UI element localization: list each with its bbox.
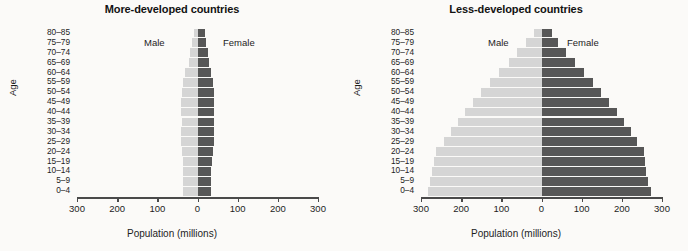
x-axis-tick-label: 200: [109, 203, 125, 214]
pyramid-row: [77, 77, 318, 87]
bar-female: [198, 88, 214, 97]
bar-male: [444, 137, 542, 146]
age-tick-labels-right: 80–8575–7970–7465–6960–6455–5950–5445–49…: [362, 28, 414, 196]
bar-male: [185, 68, 197, 77]
page-title-less-developed: Less-developed countries: [344, 3, 688, 15]
bar-male: [183, 167, 197, 176]
bar-male: [490, 78, 541, 87]
bar-male: [534, 29, 541, 38]
pyramid-row: [77, 38, 318, 48]
bar-female: [542, 177, 648, 186]
bar-female: [198, 38, 207, 47]
bar-male: [430, 177, 542, 186]
x-axis-tick: [662, 197, 663, 202]
pyramid-row: [421, 176, 662, 186]
bar-female: [542, 78, 593, 87]
x-axis-label-left: Population (millions): [0, 228, 344, 239]
bar-female: [542, 118, 624, 127]
bar-female: [542, 38, 559, 47]
bar-male: [436, 147, 541, 156]
x-axis-tick: [198, 197, 199, 202]
pyramid-row: [77, 48, 318, 58]
pyramid-row: [77, 127, 318, 137]
bar-male: [509, 58, 542, 67]
x-axis-tick-label: 0: [539, 203, 544, 214]
age-tick-label: 0–4: [362, 186, 414, 196]
age-tick-labels-left: 80–8575–7970–7465–6960–6455–5950–5445–49…: [18, 28, 70, 196]
bar-female: [198, 137, 214, 146]
x-axis-tick: [622, 197, 623, 202]
pyramid-row: [421, 147, 662, 157]
pyramid-row: [77, 186, 318, 196]
x-axis-tick-label: 100: [574, 203, 590, 214]
bar-male: [481, 88, 541, 97]
bar-male: [526, 38, 541, 47]
pyramid-row: [421, 157, 662, 167]
pyramid-row: [77, 107, 318, 117]
pyramid-row: [77, 117, 318, 127]
bar-male: [182, 88, 197, 97]
pyramid-row: [77, 58, 318, 68]
bar-female: [542, 88, 601, 97]
bar-female: [198, 147, 213, 156]
pyramid-row: [421, 77, 662, 87]
x-axis-tick: [318, 197, 319, 202]
pyramid-row: [77, 166, 318, 176]
bar-male: [428, 187, 542, 196]
pyramid-row: [421, 97, 662, 107]
x-axis-tick-label: 300: [310, 203, 326, 214]
series-label-male-left: Male: [144, 37, 165, 48]
bar-female: [542, 187, 651, 196]
pyramid-row: [77, 87, 318, 97]
x-axis-tick-label: 100: [230, 203, 246, 214]
bar-female: [542, 68, 585, 77]
bar-male: [182, 118, 198, 127]
pyramid-row: [421, 137, 662, 147]
bar-female: [542, 48, 567, 57]
page-title-more-developed: More-developed countries: [0, 3, 344, 15]
x-axis-tick-label: 300: [69, 203, 85, 214]
bar-female: [198, 48, 208, 57]
pyramid-row: [77, 68, 318, 78]
x-axis-tick-label: 100: [493, 203, 509, 214]
bar-male: [432, 167, 541, 176]
pyramid-row: [421, 166, 662, 176]
bar-female: [542, 167, 647, 176]
x-axis-tick: [278, 197, 279, 202]
bar-male: [183, 78, 197, 87]
pyramid-row: [421, 38, 662, 48]
series-label-female-left: Female: [223, 37, 255, 48]
bar-female: [198, 118, 214, 127]
x-axis-tick: [77, 197, 78, 202]
pyramid-row: [77, 137, 318, 147]
bar-female: [198, 177, 212, 186]
pyramid-row: [421, 48, 662, 58]
pyramid-row: [421, 28, 662, 38]
bar-male: [181, 108, 197, 117]
x-axis-tick-label: 300: [654, 203, 670, 214]
bar-female: [198, 108, 214, 117]
bar-female: [542, 147, 644, 156]
bar-male: [183, 187, 197, 196]
x-axis-tick: [157, 197, 158, 202]
pyramid-row: [77, 176, 318, 186]
pyramid-row: [421, 107, 662, 117]
pyramid-row: [77, 28, 318, 38]
age-tick-label: 0–4: [18, 186, 70, 196]
bar-male: [181, 127, 197, 136]
x-axis-tick-label: 200: [614, 203, 630, 214]
bar-male: [465, 108, 541, 117]
x-axis-tick: [117, 197, 118, 202]
bar-male: [499, 68, 541, 77]
bar-female: [542, 29, 552, 38]
bar-male: [182, 147, 197, 156]
bar-male: [451, 127, 541, 136]
bar-female: [198, 29, 205, 38]
x-axis-label-right: Population (millions): [344, 228, 688, 239]
pyramid-row: [421, 68, 662, 78]
bar-male: [189, 58, 198, 67]
pyramid-row: [421, 117, 662, 127]
bar-female: [198, 157, 212, 166]
bar-male: [183, 157, 197, 166]
pyramid-row: [421, 87, 662, 97]
